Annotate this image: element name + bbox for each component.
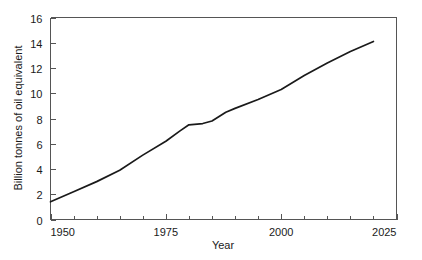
tick-marks xyxy=(51,19,398,221)
x-tick-label: 2025 xyxy=(372,226,396,238)
y-tick-label: 14 xyxy=(30,38,42,50)
y-tick-label: 2 xyxy=(36,189,42,201)
x-tick-label: 2000 xyxy=(269,226,293,238)
plot-frame xyxy=(51,18,397,220)
y-axis-title: Billion tonnes of oil equivalent xyxy=(12,46,24,191)
data-series-group xyxy=(51,41,374,201)
y-tick-label: 10 xyxy=(30,88,42,100)
y-tick-label: 4 xyxy=(36,164,42,176)
x-tick-label: 1975 xyxy=(154,226,178,238)
y-tick-label: 6 xyxy=(36,139,42,151)
y-tick-label: 12 xyxy=(30,63,42,75)
y-tick-label: 16 xyxy=(30,13,42,25)
x-tick-label: 1950 xyxy=(51,226,75,238)
line-chart: 1950197520002025 0246810121416 Year Bill… xyxy=(0,0,422,260)
y-tick-label: 0 xyxy=(36,215,42,227)
y-tick-label: 8 xyxy=(36,114,42,126)
x-tick-labels: 1950197520002025 xyxy=(51,226,397,238)
data-series-line xyxy=(51,41,374,201)
chart-canvas: 1950197520002025 0246810121416 Year Bill… xyxy=(0,0,422,260)
x-axis-title: Year xyxy=(212,239,235,251)
y-tick-labels: 0246810121416 xyxy=(30,13,42,227)
